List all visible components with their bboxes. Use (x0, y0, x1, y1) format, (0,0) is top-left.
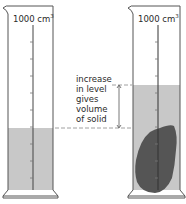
annotation-line: volume (76, 104, 112, 114)
right-measuring-cylinder (128, 6, 185, 198)
annotation-line: in level (76, 84, 112, 94)
right-capacity-label: 1000 cm3 (138, 13, 179, 24)
annotation-line: of solid (76, 114, 112, 124)
annotation-line: increase (76, 74, 112, 84)
left-liquid (8, 128, 53, 190)
left-cylinder-base (3, 190, 58, 198)
left-capacity-label: 1000 cm3 (13, 13, 54, 24)
annotation-line: gives (76, 94, 112, 104)
left-measuring-cylinder (3, 6, 58, 198)
annotation-text: increase in level gives volume of solid (76, 74, 112, 124)
